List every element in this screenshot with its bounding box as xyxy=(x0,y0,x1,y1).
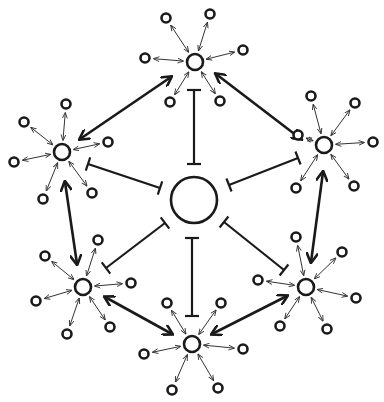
activation-arrow xyxy=(311,172,323,262)
inhibition-edge xyxy=(102,217,169,273)
satellite-link-arrow xyxy=(267,281,294,285)
inhibition-edge xyxy=(185,238,199,316)
satellite-link-arrow xyxy=(201,72,215,93)
activation-arrow xyxy=(216,74,301,139)
satellite-node xyxy=(217,299,226,308)
satellite-link-arrow xyxy=(315,258,336,278)
satellite-node xyxy=(216,97,225,106)
satellite-link-arrow xyxy=(95,284,122,286)
satellite-link-arrow xyxy=(331,155,349,179)
satellite-link-arrow xyxy=(31,128,53,145)
satellite-node xyxy=(127,279,136,288)
inhibition-edge xyxy=(220,217,289,276)
satellite-node xyxy=(206,10,215,19)
satellite-node xyxy=(20,118,29,127)
hub-left-node xyxy=(54,144,70,160)
satellite-link-arrow xyxy=(69,162,87,186)
activation-arrow xyxy=(65,182,77,264)
satellite-node xyxy=(106,323,115,332)
satellite-node xyxy=(39,195,48,204)
satellite-node xyxy=(292,233,301,242)
satellite-node xyxy=(32,297,41,306)
satellite-node xyxy=(166,98,175,107)
satellite-link-arrow xyxy=(87,249,96,276)
satellite-link-arrow xyxy=(207,52,235,59)
satellite-node xyxy=(276,322,285,331)
satellite-node xyxy=(94,236,103,245)
satellite-node xyxy=(214,384,223,393)
satellite-node xyxy=(294,131,303,140)
satellite-link-arrow xyxy=(301,155,318,180)
inhibition-bar-icon xyxy=(161,217,169,228)
satellite-node xyxy=(350,182,359,191)
satellite-link-arrow xyxy=(199,23,208,51)
hub-right-node xyxy=(316,137,332,153)
satellite-link-arrow xyxy=(331,110,350,135)
satellite-link-arrow xyxy=(154,59,183,61)
satellite-node xyxy=(307,92,316,101)
network-diagram xyxy=(0,0,384,402)
satellite-node xyxy=(163,299,172,308)
satellite-link-arrow xyxy=(298,246,304,275)
satellite-link-arrow xyxy=(336,143,364,145)
hub-lower-right-node xyxy=(298,279,314,295)
satellite-link-arrow xyxy=(90,297,105,320)
satellite-node xyxy=(239,345,248,354)
satellite-link-arrow xyxy=(23,154,50,160)
hub-lower-left-node xyxy=(75,279,91,295)
satellite-node xyxy=(352,294,361,303)
satellite-node xyxy=(41,252,50,261)
satellite-node xyxy=(63,330,72,339)
satellite-link-arrow xyxy=(46,163,57,191)
satellite-link-arrow xyxy=(172,311,186,334)
inhibition-bar-icon xyxy=(102,262,110,273)
satellite-node xyxy=(292,184,301,193)
satellite-node xyxy=(254,276,263,285)
satellite-link-arrow xyxy=(153,346,180,352)
satellite-link-arrow xyxy=(74,144,99,150)
hub-top-node xyxy=(187,54,203,70)
satellite-node xyxy=(239,46,248,55)
inhibition-edge xyxy=(187,90,201,164)
satellite-node xyxy=(104,138,113,147)
satellite-node xyxy=(338,248,347,257)
center-node xyxy=(171,177,217,223)
satellite-link-arrow xyxy=(45,290,72,298)
satellite-node xyxy=(88,189,97,198)
activation-arrow xyxy=(80,77,171,139)
satellite-node xyxy=(141,54,150,63)
satellite-node xyxy=(323,325,332,334)
satellite-node xyxy=(140,350,149,359)
satellite-link-arrow xyxy=(52,262,74,280)
hub-bottom-node xyxy=(184,336,200,352)
satellite-link-arrow xyxy=(285,297,299,319)
satellite-link-arrow xyxy=(176,355,188,382)
satellite-link-arrow xyxy=(204,345,234,348)
satellite-link-arrow xyxy=(198,354,213,380)
satellite-link-arrow xyxy=(306,138,312,140)
satellite-node xyxy=(62,100,71,109)
satellite-node xyxy=(162,14,171,23)
satellite-node xyxy=(369,138,378,147)
satellite-link-arrow xyxy=(311,298,323,321)
nodes xyxy=(10,10,378,395)
satellite-link-arrow xyxy=(199,310,216,334)
satellite-link-arrow xyxy=(171,26,188,52)
satellite-link-arrow xyxy=(175,72,189,94)
inhibition-edge xyxy=(86,157,162,194)
satellite-link-arrow xyxy=(313,105,321,134)
satellite-node xyxy=(10,158,19,167)
inhibition-edge xyxy=(226,151,300,191)
satellite-link-arrow xyxy=(70,298,79,325)
satellite-node xyxy=(168,386,177,395)
satellite-node xyxy=(351,99,360,108)
satellite-link-arrow xyxy=(318,290,347,296)
satellite-link-arrow xyxy=(63,113,65,140)
